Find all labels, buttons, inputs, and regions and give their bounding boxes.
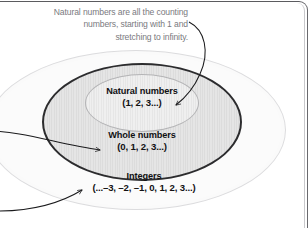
integers-label: Integers (...–3, –2, –1, 0, 1, 2, 3...) xyxy=(54,171,234,194)
integers-members: (...–3, –2, –1, 0, 1, 2, 3...) xyxy=(54,182,234,194)
natural-numbers-members: (1, 2, 3...) xyxy=(85,97,199,109)
number-sets-diagram-page: Natural numbers (1, 2, 3...) Whole numbe… xyxy=(0,0,308,228)
whole-numbers-label: Whole numbers (0, 1, 2, 3...) xyxy=(72,130,212,153)
integers-name: Integers xyxy=(54,171,234,182)
natural-numbers-name: Natural numbers xyxy=(85,86,199,97)
whole-numbers-name: Whole numbers xyxy=(72,130,212,141)
natural-numbers-caption: Natural numbers are all the counting num… xyxy=(52,6,188,43)
whole-numbers-members: (0, 1, 2, 3...) xyxy=(72,141,212,153)
natural-numbers-label: Natural numbers (1, 2, 3...) xyxy=(85,86,199,109)
